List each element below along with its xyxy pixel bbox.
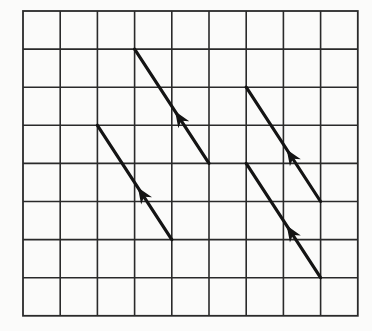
vector-grid-diagram xyxy=(0,0,372,331)
grid-lines xyxy=(23,11,358,316)
